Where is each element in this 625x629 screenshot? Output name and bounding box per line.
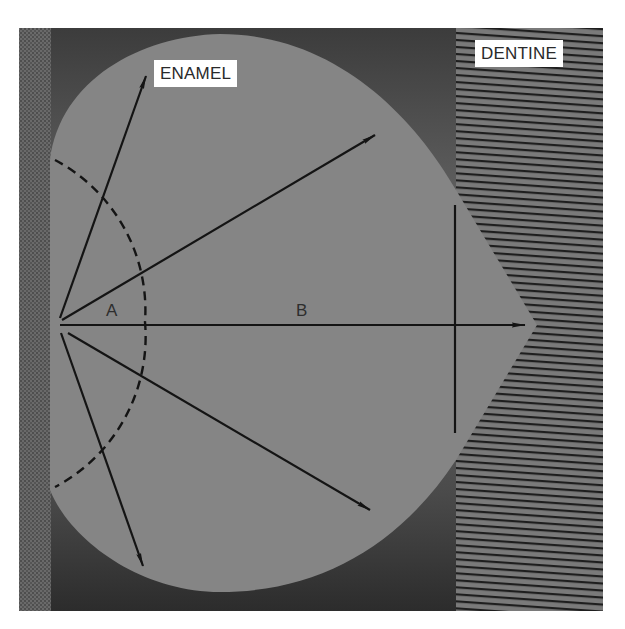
enamel-label: ENAMEL (154, 60, 237, 87)
point-b-label: B (296, 302, 307, 320)
enamel-dentine-diagram: ENAMEL DENTINE A B (0, 0, 625, 629)
point-a-label: A (106, 302, 117, 320)
dentine-label: DENTINE (475, 40, 563, 67)
diagram-canvas (0, 0, 625, 629)
left-border-strip (19, 28, 51, 611)
